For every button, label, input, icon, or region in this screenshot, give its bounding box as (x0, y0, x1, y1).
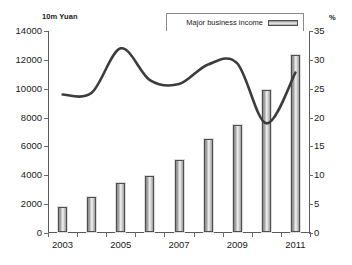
y-axis-right-tick-label: 30 (314, 54, 338, 65)
legend-label-major-business-income: Major business income (186, 18, 263, 27)
y-axis-left-tick-label: 10000 (2, 83, 42, 94)
y-axis-right-tick-label: 25 (314, 83, 338, 94)
y-axis-right-tick-label: 15 (314, 140, 338, 151)
x-axis-tick (310, 232, 311, 237)
legend-item-major-business-income: Major business income (172, 16, 298, 29)
line-path-increased (63, 48, 296, 123)
plot-area: 02000400060008000100001200014000 0510152… (48, 31, 310, 233)
y-axis-left-tick-label: 0 (2, 227, 42, 238)
legend-bar-swatch-icon (268, 20, 298, 26)
x-axis-label-2003: 2003 (41, 239, 85, 250)
y-axis-right-tick-label: 5 (314, 198, 338, 209)
y-axis-left-tick-label: 14000 (2, 25, 42, 36)
line-series-increased (48, 31, 310, 233)
chart-container: 10m Yuan % Major business income Increas… (0, 0, 352, 265)
x-axis-label-2005: 2005 (99, 239, 143, 250)
y-axis-left-tick-label: 6000 (2, 140, 42, 151)
y-axis-right-tick-label: 35 (314, 25, 338, 36)
y-axis-right-tick-label: 0 (314, 227, 338, 238)
y-axis-right-tick-label: 20 (314, 112, 338, 123)
y-axis-left-tick-label: 4000 (2, 169, 42, 180)
y-axis-right-tick-label: 10 (314, 169, 338, 180)
x-axis-label-2011: 2011 (273, 239, 317, 250)
y-axis-left-tick-label: 8000 (2, 112, 42, 123)
x-axis-label-2009: 2009 (215, 239, 259, 250)
y-axis-left-tick-label: 2000 (2, 198, 42, 209)
right-axis-unit-label: % (329, 13, 336, 22)
y-axis-left-tick-label: 12000 (2, 54, 42, 65)
x-axis-label-2007: 2007 (157, 239, 201, 250)
left-axis-unit-label: 10m Yuan (42, 12, 78, 21)
